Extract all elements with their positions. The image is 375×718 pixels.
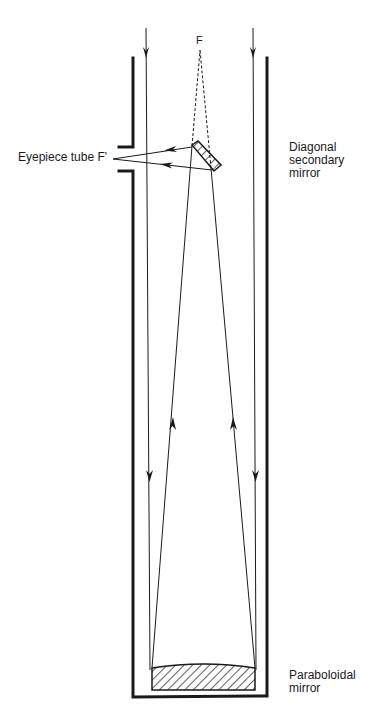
incoming-rays xyxy=(146,28,256,670)
telescope-diagram xyxy=(0,0,375,718)
tube xyxy=(119,58,267,697)
secondary-mirror-label: Diagonal secondary mirror xyxy=(289,141,375,180)
primary-mirror-label: Paraboloidal mirror xyxy=(289,669,375,695)
incoming-ray-right xyxy=(253,28,256,670)
arrow-up-left xyxy=(169,417,176,430)
primary-label-line2: mirror xyxy=(289,682,375,695)
incoming-ray-left xyxy=(146,28,150,670)
tube-left-wall-lower xyxy=(119,58,267,697)
secondary-mirror xyxy=(192,141,221,171)
dashed-line-left xyxy=(192,50,200,146)
arrow-down-left-mid xyxy=(146,470,153,482)
focus-label: F xyxy=(196,34,203,47)
secondary-label-line3: mirror xyxy=(289,167,375,180)
reflected-ray-left xyxy=(152,146,192,668)
tube-left-wall-upper xyxy=(119,58,133,147)
up-arrows xyxy=(169,417,237,430)
eyepiece-ray-upper xyxy=(113,147,192,159)
eyepiece-tube-label: Eyepiece tube F' xyxy=(18,151,107,164)
primary-mirror xyxy=(152,664,255,690)
reflected-rays xyxy=(152,146,255,668)
down-arrows xyxy=(143,47,259,482)
